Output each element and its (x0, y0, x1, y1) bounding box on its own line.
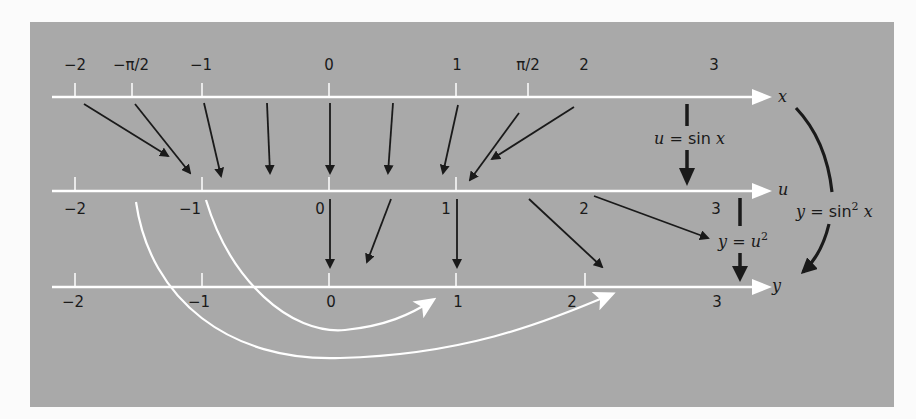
map-arrow (267, 103, 270, 173)
u-tick-label: 1 (441, 200, 451, 218)
y-tick-label: 0 (326, 293, 336, 311)
y-axis-ticks (75, 273, 585, 287)
x-to-u-arrows (84, 103, 574, 180)
map-arrow (367, 199, 391, 262)
map-arrow (135, 104, 190, 173)
u-tick-label: −2 (64, 200, 86, 218)
y-tick-label: 1 (453, 293, 463, 311)
y-axis-arrowhead (752, 279, 772, 295)
x-tick-label: −2 (64, 56, 86, 74)
x-tick-label: −1 (190, 56, 212, 74)
map-arrow (388, 103, 393, 173)
u-axis: −2 −1 0 1 2 3 u (52, 177, 788, 218)
u-axis-ticks (75, 177, 456, 191)
x-tick-label: 1 (452, 56, 462, 74)
y-equals-sin-squared-x-block: y = sin2 x (795, 108, 873, 272)
u-axis-arrowhead (752, 183, 772, 199)
u-equals-sin-x-block: u = sin x (654, 104, 725, 186)
u-tick-label: 3 (711, 200, 721, 218)
x-tick-label: −π/2 (113, 56, 149, 74)
negative-u-to-y-curves (136, 200, 612, 358)
x-tick-label: 0 (324, 56, 334, 74)
map-arrow (594, 196, 708, 238)
u-tick-label: −1 (179, 200, 201, 218)
x-axis-arrowhead (752, 89, 772, 105)
map-arrow (529, 199, 602, 267)
x-axis: −2 −π/2 −1 0 1 π/2 2 3 x (52, 56, 787, 106)
x-axis-label: x (778, 87, 787, 106)
down-arrow-icon (679, 168, 695, 186)
u-tick-label: 2 (579, 200, 589, 218)
u-to-y-arrows (330, 196, 708, 267)
x-axis-ticks (75, 83, 528, 97)
big-curve-upper (796, 108, 832, 192)
map-arrow (443, 105, 458, 173)
y-equals-u-squared-block: y = u2 (717, 198, 768, 282)
map-arrow (204, 103, 221, 176)
x-tick-label: π/2 (516, 56, 540, 74)
u-axis-label: u (778, 180, 788, 199)
down-arrow-icon (732, 266, 748, 282)
x-tick-label: 2 (579, 56, 589, 74)
x-tick-label: 3 (709, 56, 719, 74)
y-tick-label: −2 (62, 293, 84, 311)
y-equals-sin-squared-x-label: y = sin2 x (795, 200, 873, 221)
function-composition-diagram: −2 −π/2 −1 0 1 π/2 2 3 x −2 −1 0 1 2 3 u (0, 0, 916, 419)
y-axis-label: y (771, 276, 782, 295)
big-curve-lower (803, 224, 829, 272)
curve-arrow-u-negpi2-to-y (136, 202, 612, 358)
y-tick-label: 3 (712, 293, 722, 311)
y-equals-u-squared-label: y = u2 (717, 230, 768, 251)
u-tick-label: 0 (315, 200, 325, 218)
u-equals-sin-x-label: u = sin x (654, 129, 725, 148)
y-axis: −2 −1 0 1 2 3 y (52, 273, 782, 311)
curve-arrow-u-neg1-to-y1 (206, 200, 433, 330)
